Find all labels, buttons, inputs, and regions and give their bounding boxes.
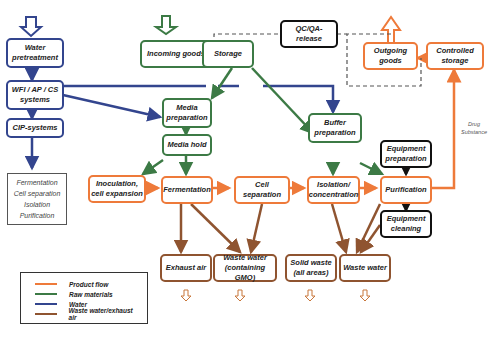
media-preparation-box[interactable]: Media preparation — [162, 98, 212, 128]
wfi-systems-box[interactable]: WFI / AP / CS systems — [6, 80, 64, 110]
equipment-cleaning-box[interactable]: Equipment cleaning — [380, 210, 432, 238]
legend-swatch — [35, 293, 57, 295]
waste-water-gmo-box[interactable]: Waste water (containing GMO) — [213, 254, 277, 282]
drug-substance-label: Drug Substance — [458, 120, 490, 136]
legend-item-waste: Waste water/exhaust air — [35, 309, 141, 319]
cip-target: Isolation — [8, 199, 66, 210]
controlled-storage-box[interactable]: Controlled storage — [426, 42, 484, 70]
cip-systems-box[interactable]: CIP-systems — [6, 118, 64, 138]
buffer-preparation-box[interactable]: Buffer preparation — [308, 113, 362, 143]
media-hold-box[interactable]: Media hold — [162, 134, 212, 156]
water-pretreatment-box[interactable]: Water pretreatment — [6, 38, 64, 68]
waste-water-box[interactable]: Waste water — [339, 254, 391, 282]
fermentation-box[interactable]: Fermentation — [161, 176, 213, 204]
legend-swatch — [35, 283, 57, 285]
storage-box[interactable]: Storage — [202, 40, 254, 68]
cell-separation-box[interactable]: Cell separation — [234, 176, 290, 204]
legend-item-raw-materials: Raw materials — [35, 289, 141, 299]
inoculation-box[interactable]: Inoculation, cell expansion — [88, 175, 146, 203]
legend: Product flow Raw materials Water Waste w… — [20, 272, 148, 324]
outgoing-goods-box[interactable]: Outgoing goods — [363, 42, 418, 70]
legend-item-product-flow: Product flow — [35, 279, 141, 289]
cip-target: Fermentation — [8, 177, 66, 188]
isolation-box[interactable]: Isolation/ concentration — [307, 176, 360, 204]
exhaust-air-box[interactable]: Exhaust air — [160, 254, 212, 282]
cip-targets-note: Fermentation Cell separation Isolation P… — [7, 173, 67, 225]
legend-swatch — [35, 313, 57, 315]
solid-waste-box[interactable]: Solid waste (all areas) — [285, 254, 337, 282]
water-input-arrow — [21, 17, 41, 36]
legend-swatch — [35, 303, 57, 305]
cip-target: Cell separation — [8, 188, 66, 199]
purification-box[interactable]: Purification — [380, 176, 432, 204]
cip-target: Purification — [8, 210, 66, 221]
qc-qa-release-box[interactable]: QC/QA-release — [280, 20, 338, 48]
raw-input-arrow — [156, 16, 176, 34]
equipment-preparation-box[interactable]: Equipment preparation — [380, 140, 432, 168]
